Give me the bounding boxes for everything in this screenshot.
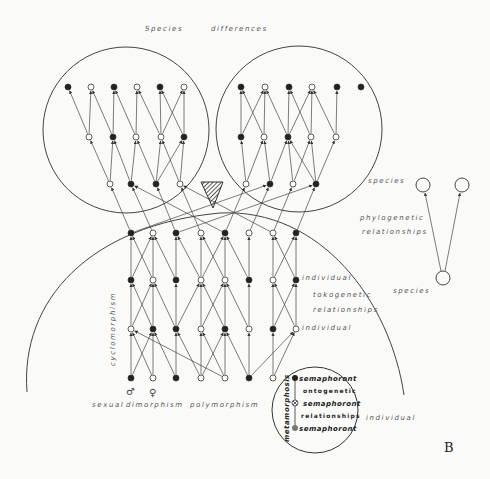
cyclomorphism-label: cyclomorphism: [109, 292, 117, 366]
inset-line-5: semaphoront: [299, 425, 357, 433]
inset-line-4: relationships: [301, 412, 361, 420]
open-node: [177, 181, 183, 187]
relationship-arrow: [274, 333, 294, 375]
filled-node: [173, 375, 179, 381]
relationship-arrow: [264, 91, 265, 134]
filled-node: [246, 375, 252, 381]
tokogenetic-label: tokogenetic: [313, 291, 372, 299]
relationship-arrow: [311, 91, 312, 134]
open-node: [222, 375, 228, 381]
relationship-arrow: [226, 188, 244, 230]
relationship-arrow: [184, 186, 270, 232]
filled-node: [110, 134, 116, 140]
open-node: [246, 326, 252, 332]
relationship-arrow: [135, 331, 222, 377]
open-node: [261, 134, 267, 140]
relationship-arrow: [116, 91, 135, 134]
hennig-diagram: semaphoront ontogenetic semaphoront rela…: [0, 0, 490, 479]
phylo-ancestor: [436, 271, 450, 285]
filled-node: [128, 375, 134, 381]
phylogenetic-label: phylogenetic: [359, 214, 424, 222]
relationship-arrow: [178, 237, 199, 277]
relationship-arrow: [290, 140, 314, 181]
relationship-arrow: [314, 91, 335, 134]
relationship-arrow: [182, 188, 200, 230]
filled-node: [293, 277, 299, 283]
filled-node: [222, 230, 228, 236]
relationship-arrow: [288, 141, 292, 181]
individual-label-bottom: individual: [302, 324, 352, 332]
dimorphism-label: dimorphism: [126, 401, 184, 409]
filled-node: [286, 84, 292, 90]
open-node: [150, 277, 156, 283]
filled-node: [270, 326, 276, 332]
relationship-arrow: [155, 284, 175, 326]
relationship-arrow: [288, 91, 289, 134]
phylo-edge-b: [445, 193, 460, 271]
filled-node: [128, 277, 134, 283]
metamorphosis-label: metamorphosis: [283, 374, 291, 442]
relationship-arrow: [250, 188, 268, 230]
filled-node: [181, 134, 187, 140]
relationship-arrow: [227, 333, 248, 375]
relationship-arrow: [70, 91, 88, 134]
title-species: Species: [145, 25, 183, 33]
relationship-arrow: [311, 141, 315, 181]
male-symbol-icon: ♂: [126, 386, 135, 397]
filled-node: [293, 230, 299, 236]
filled-node: [267, 181, 273, 187]
relationship-arrow: [155, 333, 175, 375]
open-node: [158, 134, 164, 140]
relationship-arrow: [158, 188, 175, 230]
phylo-relationships-label: relationships: [362, 228, 428, 236]
open-node: [290, 181, 296, 187]
semaphoront-node-1: [292, 375, 298, 381]
relationship-arrow: [133, 188, 152, 230]
relationship-arrow: [162, 141, 178, 181]
relationship-arrow: [267, 91, 287, 134]
relationship-arrow: [110, 141, 113, 181]
relationship-arrow: [227, 284, 248, 326]
individual-label-top: individual: [302, 274, 352, 282]
toko-relationships-label: relationships: [313, 306, 379, 314]
filled-node: [128, 181, 134, 187]
open-node: [270, 230, 276, 236]
filled-node: [238, 84, 244, 90]
polymorphism-label: polymorphism: [189, 401, 259, 409]
female-symbol-icon: ♀: [149, 387, 156, 398]
open-node: [246, 230, 252, 236]
relationship-arrow: [158, 140, 182, 181]
relationship-arrow: [160, 91, 161, 134]
inset-line-3: semaphoront: [303, 400, 361, 408]
filled-node: [157, 84, 163, 90]
filled-node: [246, 277, 252, 283]
relationship-arrow: [178, 333, 200, 375]
relationship-arrow: [113, 91, 114, 134]
open-node: [198, 375, 204, 381]
relationship-arrow: [93, 91, 112, 134]
relationship-arrow: [155, 237, 175, 277]
filled-node: [128, 230, 134, 236]
relationship-arrow: [156, 141, 160, 181]
panel-letter: B: [444, 440, 454, 455]
species-arc: [27, 213, 404, 395]
filled-node: [222, 326, 228, 332]
open-node: [198, 326, 204, 332]
filled-node: [358, 84, 364, 90]
relationship-arrow: [227, 237, 248, 277]
open-node: [222, 277, 228, 283]
filled-node: [313, 181, 319, 187]
open-node: [333, 134, 339, 140]
open-node: [181, 84, 187, 90]
filled-node: [65, 84, 71, 90]
open-node: [150, 230, 156, 236]
phylo-species-a: [416, 178, 430, 192]
filled-node: [153, 181, 159, 187]
relationship-arrow: [136, 91, 137, 134]
relationship-arrow: [251, 332, 293, 376]
open-node: [128, 326, 134, 332]
sexual-label: sexual: [92, 401, 124, 409]
relationship-arrow: [271, 141, 286, 181]
relationship-arrow: [114, 141, 129, 181]
open-node: [88, 84, 94, 90]
